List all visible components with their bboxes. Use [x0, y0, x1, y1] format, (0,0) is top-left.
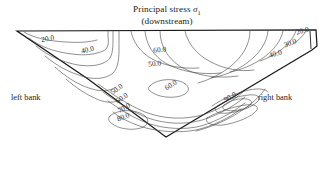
contour-60-right — [198, 31, 250, 83]
contour-label-20-upper-left: 20.0 — [41, 33, 55, 44]
contour-label-90-lower-right: 90.0 — [222, 90, 238, 104]
contour-60-left — [55, 67, 116, 91]
contour-figure: Principal stress σ1 (downstream) left ba… — [0, 0, 334, 169]
contour-label-30-upper-right: 30.0 — [282, 36, 298, 49]
contour-80-right — [212, 89, 268, 106]
contour-label-50-center: 50.0 — [148, 58, 162, 69]
contour-50-right — [211, 31, 268, 78]
right-sliver-edge — [310, 31, 311, 49]
contour-label-40-upper-right: 40.0 — [268, 47, 283, 59]
contour-label-20-upper-right: 20.0 — [295, 24, 310, 36]
contour-20-left — [24, 32, 97, 42]
contour-label-60-upper-center: 60.0 — [153, 44, 167, 54]
contour-center-extra — [185, 31, 254, 71]
contour-plot-canvas: 20.0 40.0 60.0 50.0 60.0 50.0 60.0 70.0 … — [0, 0, 334, 169]
